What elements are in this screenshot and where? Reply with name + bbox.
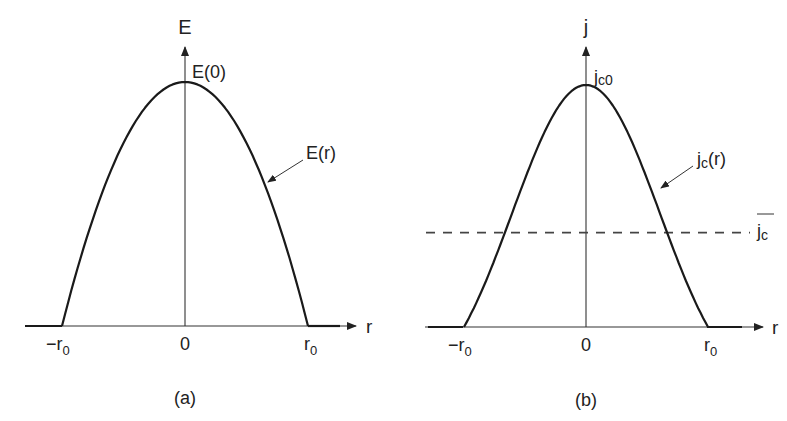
panel-b-tick-zero: 0 — [581, 335, 591, 355]
tick-subscript: 0 — [710, 344, 717, 359]
panel-b-pointer-arrow — [661, 166, 693, 188]
panel-a-tick-zero: 0 — [180, 334, 190, 354]
panel-b-mean-label: jc — [756, 214, 774, 243]
panel-a-pointer-arrow — [268, 160, 303, 182]
panel-b: j r jc jc0 jc(r) −r0 0 r0 — [425, 16, 779, 410]
panel-a-tick-neg-r0: −r0 — [46, 334, 70, 358]
tick-subscript: 0 — [465, 344, 472, 359]
panel-b-peak-label: jc0 — [593, 67, 613, 88]
tick-main: −r — [448, 335, 465, 355]
panel-b-tick-neg-r0: −r0 — [448, 335, 472, 359]
tick-text: −r0 — [448, 335, 472, 359]
tick-subscript: 0 — [310, 343, 317, 358]
panel-a-x-axis-label: r — [366, 316, 373, 337]
panel-a-peak-label: E(0) — [192, 62, 226, 82]
panel-a-y-axis-label: E — [178, 16, 191, 38]
mean-label-sub: c — [761, 227, 768, 243]
tick-text: r0 — [304, 334, 317, 358]
peak-label-sub: c0 — [598, 72, 613, 88]
panel-a-tick-r0: r0 — [304, 334, 317, 358]
panel-b-x-axis-label: r — [772, 317, 779, 338]
tick-main: −r — [46, 334, 63, 354]
tick-text: −r0 — [46, 334, 70, 358]
figure-canvas: E r E(0) E(r) −r0 0 r0 (a) j r — [0, 0, 787, 421]
curve-label-tail: (r) — [708, 149, 726, 169]
panel-b-y-axis-label: j — [583, 16, 588, 38]
panel-a: E r E(0) E(r) −r0 0 r0 (a) — [25, 16, 373, 408]
tick-subscript: 0 — [63, 343, 70, 358]
panel-a-caption: (a) — [174, 388, 196, 408]
panel-b-caption: (b) — [575, 390, 597, 410]
panel-b-curve-label: jc(r) — [696, 149, 726, 171]
panel-b-tick-r0: r0 — [704, 335, 717, 359]
tick-text: r0 — [704, 335, 717, 359]
mean-label-text: jc — [756, 221, 768, 243]
curve-label-sub: c — [701, 155, 708, 171]
panel-a-curve-label: E(r) — [306, 143, 336, 163]
